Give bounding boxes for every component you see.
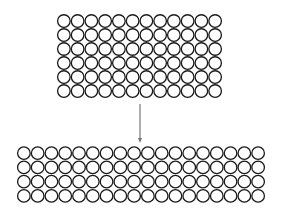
circle <box>58 57 71 70</box>
circle <box>183 147 196 160</box>
circle <box>142 175 155 188</box>
circle <box>210 161 223 174</box>
circle <box>58 15 71 28</box>
circle <box>195 71 208 84</box>
circle <box>45 190 58 203</box>
circle <box>73 161 86 174</box>
circle <box>252 190 265 203</box>
circle <box>169 190 182 203</box>
circle <box>169 147 182 160</box>
circle <box>155 190 168 203</box>
circle <box>168 85 181 98</box>
circle <box>183 175 196 188</box>
diagram-canvas <box>0 0 283 222</box>
circle <box>85 85 98 98</box>
circle <box>252 175 265 188</box>
circle <box>73 147 86 160</box>
circle <box>18 161 31 174</box>
circle <box>181 85 194 98</box>
circle <box>252 147 265 160</box>
circle <box>99 43 112 56</box>
circle <box>58 43 71 56</box>
circle <box>86 161 99 174</box>
circle <box>210 175 223 188</box>
circle <box>224 161 237 174</box>
circle <box>238 190 251 203</box>
circle <box>155 175 168 188</box>
circle <box>99 71 112 84</box>
circle <box>59 175 72 188</box>
circle <box>195 43 208 56</box>
circle <box>71 71 84 84</box>
circle <box>100 190 113 203</box>
circle <box>100 147 113 160</box>
circle <box>210 147 223 160</box>
circle <box>209 29 222 42</box>
circle <box>197 175 210 188</box>
circle <box>168 71 181 84</box>
circle <box>128 175 141 188</box>
circle <box>195 29 208 42</box>
circle <box>128 190 141 203</box>
circle <box>59 147 72 160</box>
circle <box>45 175 58 188</box>
circle <box>86 175 99 188</box>
circle <box>18 190 31 203</box>
circle <box>126 85 139 98</box>
circle <box>128 161 141 174</box>
circle <box>142 147 155 160</box>
circle <box>224 147 237 160</box>
circle <box>197 147 210 160</box>
circle <box>126 57 139 70</box>
circle <box>100 175 113 188</box>
circle <box>114 147 127 160</box>
circle <box>99 57 112 70</box>
circle <box>252 161 265 174</box>
circle <box>85 29 98 42</box>
circle <box>113 57 126 70</box>
circle <box>154 15 167 28</box>
circle <box>168 15 181 28</box>
circle <box>85 57 98 70</box>
circle <box>209 71 222 84</box>
circle <box>224 175 237 188</box>
circle <box>71 57 84 70</box>
circle <box>168 29 181 42</box>
circle <box>169 175 182 188</box>
circle <box>224 190 237 203</box>
circle <box>183 190 196 203</box>
circle <box>169 161 182 174</box>
circle <box>195 15 208 28</box>
circle <box>181 43 194 56</box>
circle <box>209 43 222 56</box>
circle <box>85 15 98 28</box>
circle <box>238 161 251 174</box>
circle <box>154 57 167 70</box>
circle <box>126 15 139 28</box>
circle <box>142 190 155 203</box>
circle <box>31 147 44 160</box>
circle <box>113 15 126 28</box>
circle <box>209 85 222 98</box>
circle <box>154 43 167 56</box>
circle <box>126 43 139 56</box>
circle <box>140 43 153 56</box>
circle <box>58 85 71 98</box>
circle <box>113 29 126 42</box>
circle <box>168 57 181 70</box>
circle <box>71 15 84 28</box>
arrow-head <box>138 138 142 143</box>
circle <box>86 147 99 160</box>
circle <box>18 147 31 160</box>
circle <box>140 85 153 98</box>
circle <box>45 161 58 174</box>
circle <box>73 175 86 188</box>
circle <box>195 57 208 70</box>
circle <box>85 43 98 56</box>
circle <box>31 175 44 188</box>
circle <box>209 15 222 28</box>
circle <box>114 161 127 174</box>
circle <box>209 57 222 70</box>
circle <box>154 29 167 42</box>
down-arrow-icon <box>138 104 142 143</box>
